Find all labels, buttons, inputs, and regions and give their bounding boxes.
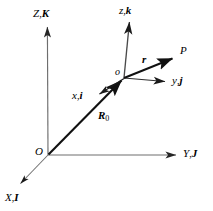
vector-r-label: r (142, 54, 146, 65)
global-x-axis-label: X,I (5, 192, 19, 203)
local-z-unit-vector: k (126, 4, 132, 16)
local-frame-axes (100, 22, 166, 94)
vector-R0-subscript: 0 (105, 114, 109, 123)
global-y-axis-label: Y,J (183, 148, 197, 159)
global-y-unit-vector: J (192, 147, 198, 159)
coordinate-frames-figure: Z,K Y,J X,I O z,k y,j x,i o P r R0 (0, 0, 213, 211)
vector-r-arrow (124, 59, 173, 79)
local-z-axis-label: z,k (119, 5, 131, 16)
local-origin-label: o (115, 67, 120, 77)
vector-R0-arrow (49, 81, 122, 155)
local-x-axis-label: x,i (72, 90, 82, 101)
local-y-axis (124, 78, 165, 82)
global-z-unit-vector: K (42, 7, 49, 19)
local-y-axis-label: y,j (172, 75, 182, 86)
global-x-axis (21, 155, 49, 184)
point-p-label: P (180, 45, 187, 56)
vector-R0-label: R0 (98, 110, 109, 121)
diagram-canvas (0, 0, 213, 211)
global-origin-label: O (35, 146, 43, 157)
global-x-symbol: X (5, 191, 12, 203)
global-z-axis-label: Z,K (33, 8, 49, 19)
local-y-unit-vector: j (179, 74, 182, 86)
local-z-axis (124, 22, 129, 78)
global-z-axis (47, 27, 48, 155)
global-x-unit-vector: I (14, 191, 18, 203)
local-x-unit-vector: i (79, 89, 82, 101)
